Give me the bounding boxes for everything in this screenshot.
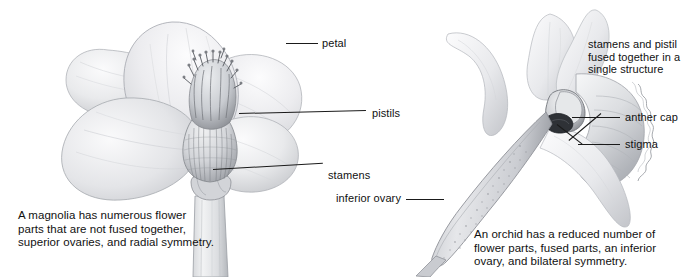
magnolia-petal-lower-left (62, 98, 201, 200)
label-inferior-ovary: inferior ovary (336, 193, 401, 204)
leader-line-inferior-ovary (406, 199, 444, 200)
label-column: stamens and pistil fused together in a s… (588, 38, 680, 76)
leader-line-anther-cap (572, 117, 620, 118)
caption-magnolia: A magnolia has numerous flower parts tha… (18, 209, 214, 250)
leader-line-petal (286, 43, 318, 44)
label-stigma: stigma (625, 139, 658, 150)
leader-line-stigma-horizontal (578, 144, 620, 145)
caption-orchid: An orchid has a reduced number of flower… (474, 228, 656, 269)
label-anther-cap: anther cap (625, 112, 678, 123)
orchid-column (545, 90, 585, 133)
label-pistils: pistils (372, 108, 400, 119)
label-petal: petal (322, 38, 346, 49)
figure-canvas: petal pistils stamens inferior ovary sta… (0, 0, 697, 277)
label-stamens: stamens (328, 170, 370, 181)
orchid-lateral-petal-left (446, 33, 507, 136)
